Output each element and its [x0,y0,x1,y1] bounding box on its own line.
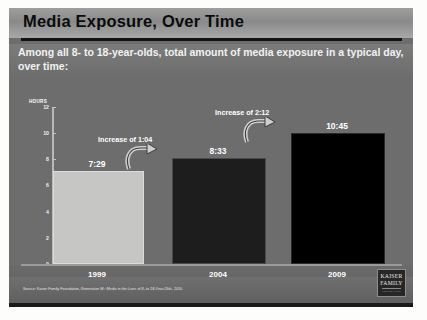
logo-line-3: FOUNDATION [382,290,401,293]
slide-bottom-rule [9,303,413,307]
source-prefix: Source: Kaiser Family Foundation, [23,287,81,291]
bar-value-label-2009: 10:45 [297,121,377,131]
bar-chart: HOURS 12 10 8 6 4 2 0 7:29 8:33 10:45 In… [9,75,413,303]
page-title: Media Exposure, Over Time [23,12,244,31]
annotation-increase-1: Increase of 1:04 [98,135,152,144]
source-note: Source: Kaiser Family Foundation, Genera… [23,287,323,291]
y-axis-label: 8 [33,156,49,162]
source-band: Source: Kaiser Family Foundation, Genera… [9,277,413,303]
y-tick [52,159,56,160]
y-axis-label: 2 [33,235,49,241]
logo-divider [382,288,401,289]
source-title: Generation M²: Media in the Lives of 8- … [81,287,172,291]
slide: Media Exposure, Over Time Among all 8- t… [9,8,413,303]
annotation-increase-2: Increase of 2:12 [215,108,269,117]
kaiser-family-logo: KAISER FAMILY FOUNDATION [377,269,406,297]
logo-line-2: FAMILY [380,280,402,286]
title-divider [21,38,402,41]
y-axis-label: 4 [33,209,49,215]
bar-2004 [172,158,266,264]
curved-arrow-icon-2 [241,117,277,143]
curved-arrow-icon-1 [123,144,159,170]
bar-1999 [53,171,144,264]
slide-title-bar: Media Exposure, Over Time [9,8,413,38]
y-tick [52,107,56,108]
bar-value-label-2004: 8:33 [178,146,258,156]
y-axis-label: 6 [33,182,49,188]
y-tick [52,133,56,134]
subtitle-text: Among all 8- to 18-year-olds, total amou… [18,46,404,73]
bar-2009 [291,133,385,264]
subtitle-band: Among all 8- to 18-year-olds, total amou… [9,44,413,75]
y-axis-label: 12 [33,104,49,110]
source-suffix: , 2010. [172,287,183,291]
y-axis-label: 10 [33,130,49,136]
